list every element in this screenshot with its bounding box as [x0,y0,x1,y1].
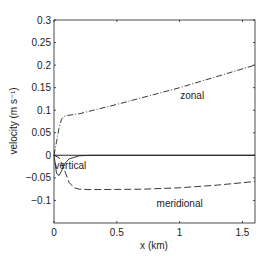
x-axis-label: x (km) [140,240,168,251]
zonal-label: zonal [180,90,204,101]
y-tick-label: −0.1 [31,195,51,206]
x-tick-label: 0.5 [110,227,124,238]
y-tick-label: 0 [45,150,51,161]
y-tick-label: 0.3 [37,15,51,26]
x-tick-label: 0 [51,227,57,238]
zonal-line [54,65,255,155]
velocity-chart: 00.511.50.30.250.20.150.10.050−0.05−0.1 … [0,0,265,265]
series-annotations: zonalverticalmeridional [54,90,204,209]
data-series [54,65,255,190]
y-tick-label: 0.25 [32,37,52,48]
y-tick-label: 0.05 [32,127,52,138]
x-tick-label: 1.5 [235,227,249,238]
axis-ticks: 00.511.50.30.250.20.150.10.050−0.05−0.1 [26,15,255,239]
plot-frame [54,20,255,223]
y-tick-label: −0.05 [26,172,52,183]
y-tick-label: 0.1 [37,105,51,116]
y-tick-label: 0.2 [37,60,51,71]
y-tick-label: 0.15 [32,82,52,93]
y-axis-label: velocity (m s⁻¹) [8,87,19,154]
vertical-label: vertical [54,160,86,171]
meridional-label: meridional [157,198,203,209]
x-tick-label: 1 [177,227,183,238]
